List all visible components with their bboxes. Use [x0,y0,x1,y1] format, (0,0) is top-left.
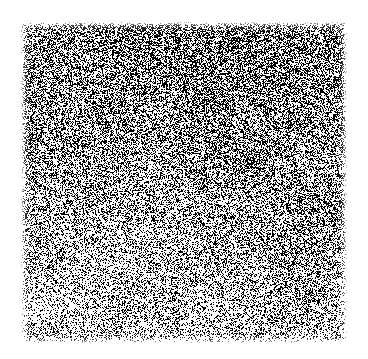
page-root: A square field of fine black-and-white d… [0,0,368,359]
dither-plate [20,21,348,344]
dither-noise-canvas [20,21,348,344]
